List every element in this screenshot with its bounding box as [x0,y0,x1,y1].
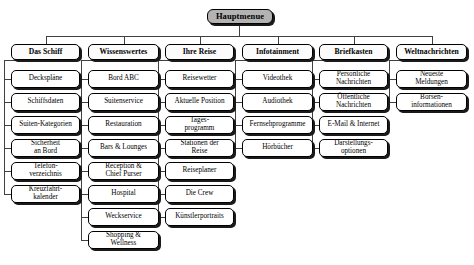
leaf-elbow-5-0 [389,79,396,80]
section-header-label: Ihre Reise [166,48,233,56]
rail-head-3 [235,60,278,61]
header-drop-0 [46,36,47,44]
leaf-elbow-2-0 [158,79,165,80]
menu-item[interactable]: Telefon- verzeichnis [11,162,80,180]
menu-item-label: E-Mail & Internet [320,121,387,129]
menu-item[interactable]: Künstlerportraits [165,208,234,226]
menu-item[interactable]: Sicherheit an Bord [11,139,80,157]
menu-item[interactable]: Bord ABC [88,70,159,88]
menu-item-label: Fernsehprogramme [243,121,312,129]
menu-item[interactable]: Fernsehprogramme [242,116,313,134]
menu-item[interactable]: Kreuzfahrt- kalender [11,185,80,203]
leaf-elbow-0-1 [4,102,11,103]
menu-item[interactable]: Reisewetter [165,70,234,88]
root-stem [239,24,240,36]
leaf-elbow-1-1 [81,102,88,103]
menu-item[interactable]: Börsen- informationen [396,93,467,111]
menu-item[interactable]: Stationen der Reise [165,139,234,157]
leaf-elbow-1-3 [81,148,88,149]
leaf-elbow-4-3 [312,148,319,149]
leaf-elbow-3-3 [235,148,242,149]
menu-item-label: Sicherheit an Bord [12,140,79,155]
rail-head-5 [389,60,432,61]
menu-item-label: Weckservice [89,213,158,221]
menu-item-label: Öffentliche Nachrichten [320,94,387,109]
section-header-das-schiff[interactable]: Das Schiff [11,44,80,60]
menu-item-label: Stationen der Reise [166,140,233,155]
menu-item[interactable]: Persönliche Nachrichten [319,70,388,88]
menu-item-label: Bord ABC [89,75,158,83]
column-rail-1 [81,60,82,240]
menu-item-label: Suiten-Kategorien [12,121,79,129]
menu-item[interactable]: Die Crew [165,185,234,203]
menu-item[interactable]: Hospital [88,185,159,203]
menu-item-label: Hospital [89,190,158,198]
rail-head-0 [4,60,46,61]
menu-item[interactable]: Restauration [88,116,159,134]
menu-item[interactable]: Videothek [242,70,313,88]
menu-item[interactable]: E-Mail & Internet [319,116,388,134]
leaf-elbow-1-0 [81,79,88,80]
column-rail-3 [235,60,236,148]
section-header-infotainment[interactable]: Infotainment [242,44,313,60]
menu-item[interactable]: Öffentliche Nachrichten [319,93,388,111]
menu-item-label: Audiothek [243,98,312,106]
menu-item[interactable]: Tages- programm [165,116,234,134]
menu-item-label: Schiffsdaten [12,98,79,106]
root-node-label: Hauptmenue [208,12,272,21]
menu-item[interactable]: Aktuelle Position [165,93,234,111]
menu-item[interactable]: Shopping & Wellness [88,231,159,249]
column-rail-0 [4,60,5,194]
menu-item[interactable]: Suitenservice [88,93,159,111]
leaf-elbow-1-2 [81,125,88,126]
menu-item-label: Neueste Meldungen [397,71,466,86]
menu-item[interactable]: Hörbücher [242,139,313,157]
menu-item-label: Shopping & Wellness [89,232,158,247]
leaf-elbow-4-1 [312,102,319,103]
section-header-wissenswertes[interactable]: Wissenswertes [88,44,159,60]
leaf-elbow-3-0 [235,79,242,80]
menu-item[interactable]: Audiothek [242,93,313,111]
leaf-elbow-4-2 [312,125,319,126]
header-foot-5 [432,60,433,61]
menu-item[interactable]: Reiseplaner [165,162,234,180]
sitemap-diagram: Hauptmenue Das SchiffDeckspläneSchiffsda… [0,0,474,265]
menu-item[interactable]: Neueste Meldungen [396,70,467,88]
rail-head-2 [158,60,200,61]
column-rail-5 [389,60,390,102]
rail-head-1 [81,60,124,61]
menu-item[interactable]: Reception & Chief Purser [88,162,159,180]
header-drop-5 [432,36,433,44]
menu-item-label: Aktuelle Position [166,98,233,106]
section-header-briefkasten[interactable]: Briefkasten [319,44,388,60]
leaf-elbow-0-5 [4,194,11,195]
section-header-label: Wissenswertes [89,48,158,56]
section-header-weltnachrichten[interactable]: Weltnachrichten [396,44,467,60]
leaf-elbow-0-0 [4,79,11,80]
leaf-elbow-1-5 [81,194,88,195]
menu-item-label: Bars & Lounges [89,144,158,152]
menu-item-label: Börsen- informationen [397,94,466,109]
menu-item-label: Darstellungs- optionen [320,140,387,155]
menu-item-label: Reception & Chief Purser [89,163,158,178]
rail-head-4 [312,60,354,61]
leaf-elbow-5-1 [389,102,396,103]
section-header-label: Weltnachrichten [397,48,466,56]
menu-item[interactable]: Deckspläne [11,70,80,88]
header-drop-3 [278,36,279,44]
header-foot-4 [354,60,355,61]
menu-item[interactable]: Darstellungs- optionen [319,139,388,157]
section-header-ihre-reise[interactable]: Ihre Reise [165,44,234,60]
menu-item[interactable]: Schiffsdaten [11,93,80,111]
menu-item[interactable]: Weckservice [88,208,159,226]
header-drop-4 [354,36,355,44]
menu-item-label: Kreuzfahrt- kalender [12,186,79,201]
root-node-hauptmenue[interactable]: Hauptmenue [207,9,273,24]
section-header-label: Briefkasten [320,48,387,56]
menu-item[interactable]: Suiten-Kategorien [11,116,80,134]
menu-item-label: Deckspläne [12,75,79,83]
leaf-elbow-2-3 [158,148,165,149]
menu-item-label: Tages- programm [166,117,233,132]
leaf-elbow-1-4 [81,171,88,172]
menu-item[interactable]: Bars & Lounges [88,139,159,157]
